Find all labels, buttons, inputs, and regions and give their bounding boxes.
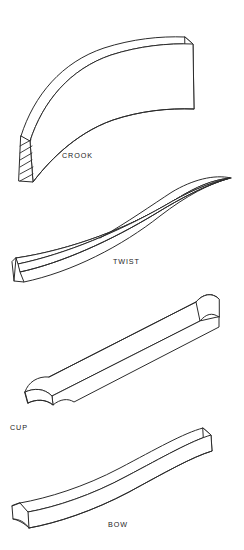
cup-front-face	[52, 317, 219, 405]
cup-label: CUP	[10, 423, 28, 432]
cup-figure: CUP	[10, 295, 219, 432]
cup-right-end-face	[196, 295, 219, 321]
crook-label: CROOK	[62, 151, 93, 160]
bow-label: BOW	[108, 520, 128, 529]
twist-figure: TWIST	[12, 177, 231, 282]
crook-figure: CROOK	[19, 37, 194, 182]
bow-top-face	[20, 428, 211, 512]
warp-defects-illustration: CROOK TWIST	[0, 0, 244, 550]
crook-front-face	[30, 44, 194, 182]
bow-figure: BOW	[12, 428, 212, 529]
bow-front-face	[28, 435, 212, 528]
twist-label: TWIST	[113, 257, 140, 266]
cup-trough-face	[25, 295, 219, 396]
wood-warp-diagram: CROOK TWIST	[0, 0, 244, 550]
